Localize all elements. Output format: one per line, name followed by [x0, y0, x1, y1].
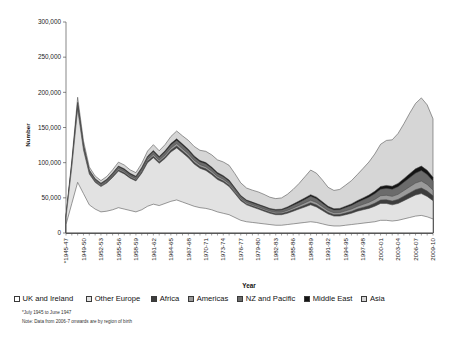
x-tick-label: 1955-56 [115, 237, 122, 260]
x-tick-label: 1952-53 [97, 237, 104, 260]
legend-swatch-icon [188, 296, 194, 302]
legend-label: NZ and Pacific [246, 295, 295, 303]
footnote-asterisk: *July 1945 to June 1947 [22, 309, 322, 318]
y-tick-label: 150,000 [38, 124, 62, 131]
y-axis-title: Number [24, 123, 31, 147]
legend-label: UK and Ireland [23, 295, 74, 303]
footnote-note: Note: Data from 2006-7 onwards are by re… [22, 318, 322, 327]
x-tick-label: 1961-62 [150, 237, 157, 260]
x-tick-label: 1970-71 [202, 237, 209, 260]
x-tick-label: 1985-86 [289, 237, 296, 260]
x-axis-title: Year [242, 282, 256, 289]
x-tick-label: 1949-50 [80, 237, 87, 260]
legend-swatch-icon [304, 296, 310, 302]
legend-label: Americas [197, 295, 229, 303]
legend-swatch-icon [86, 296, 92, 302]
y-tick-label: 100,000 [38, 159, 62, 166]
legend-swatch-icon [361, 296, 367, 302]
x-tick-label: 1994-95 [342, 237, 349, 260]
legend-item-other-europe[interactable]: Other Europe [86, 295, 140, 303]
y-tick-label: 50,000 [41, 194, 61, 201]
x-tick-label: 1988-89 [307, 237, 314, 260]
x-tick-label: 1967-68 [185, 237, 192, 260]
legend-label: Asia [370, 295, 385, 303]
legend-label: Africa [160, 295, 179, 303]
chart-legend: UK and IrelandOther EuropeAfricaAmericas… [0, 291, 449, 307]
legend-item-americas[interactable]: Americas [188, 295, 228, 303]
legend-item-africa[interactable]: Africa [151, 295, 179, 303]
x-tick-label: 1979-80 [254, 237, 261, 260]
legend-swatch-icon [14, 296, 20, 302]
x-tick-label: *1945-47 [62, 237, 69, 263]
x-tick-label: 1982-83 [272, 237, 279, 260]
chart-footnotes: *July 1945 to June 1947 Note: Data from … [22, 309, 322, 326]
y-axis-ticks: 050,000100,000150,000200,000250,000300,0… [38, 18, 66, 236]
x-tick-label: 2000-01 [377, 237, 384, 260]
x-axis-ticks: *1945-471949-501952-531955-561958-591961… [62, 233, 436, 263]
legend-item-middle-east[interactable]: Middle East [304, 295, 352, 303]
legend-swatch-icon [151, 296, 157, 302]
legend-label: Middle East [313, 295, 353, 303]
y-tick-label: 300,000 [38, 18, 62, 25]
x-tick-label: 1991-92 [324, 237, 331, 260]
legend-label: Other Europe [95, 295, 141, 303]
y-tick-label: 200,000 [38, 89, 62, 96]
legend-item-uk-and-ireland[interactable]: UK and Ireland [14, 295, 73, 303]
legend-item-nz-and-pacific[interactable]: NZ and Pacific [237, 295, 295, 303]
chart-areas [66, 97, 433, 233]
x-tick-label: 1997-98 [359, 237, 366, 260]
y-tick-label: 250,000 [38, 53, 62, 60]
legend-item-asia[interactable]: Asia [361, 295, 384, 303]
x-tick-label: 2009-10 [429, 237, 436, 260]
chart-container: 050,000100,000150,000200,000250,000300,0… [0, 0, 449, 345]
y-tick-label: 0 [57, 229, 61, 236]
x-tick-label: 2006-07 [412, 237, 419, 260]
x-tick-label: 1976-77 [237, 237, 244, 260]
x-tick-label: 1973-74 [219, 237, 226, 260]
legend-swatch-icon [237, 296, 243, 302]
x-tick-label: 2003-04 [394, 237, 401, 260]
x-tick-label: 1964-65 [167, 237, 174, 260]
x-tick-label: 1958-59 [132, 237, 139, 260]
